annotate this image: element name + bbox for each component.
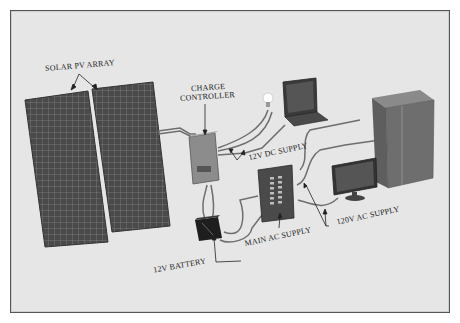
laptop bbox=[283, 78, 328, 126]
main-ac-supply-box bbox=[258, 165, 294, 222]
diagram-illustration bbox=[0, 0, 460, 323]
solar-label-arrows bbox=[71, 74, 97, 90]
monitor bbox=[332, 158, 377, 201]
refrigerator bbox=[372, 90, 434, 188]
battery bbox=[195, 215, 222, 241]
charge-controller bbox=[189, 131, 219, 184]
light-bulb bbox=[263, 93, 273, 107]
